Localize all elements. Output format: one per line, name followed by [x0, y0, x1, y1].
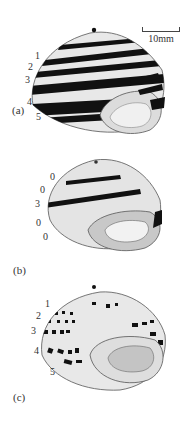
shell-c: [42, 285, 166, 390]
panel-label-c: (c): [13, 391, 25, 403]
band-label-a-3: 3: [25, 75, 30, 85]
band-label-b-3: 3: [35, 199, 40, 209]
shell-b: [45, 159, 162, 250]
band-label-b-2: 0: [40, 185, 45, 195]
band-label-b-1: 0: [50, 172, 55, 182]
band-label-c-3: 3: [31, 326, 36, 336]
band-label-b-4: 0: [36, 218, 41, 228]
scale-bar-label: 10mm: [142, 33, 180, 44]
band-label-a-5: 5: [36, 112, 41, 122]
band-label-a-4: 4: [27, 97, 32, 107]
band-label-c-1: 1: [45, 299, 50, 309]
snail-shell-figure: 10mm 1 2 3 4 5 (a) 0 0 3 0 0 (b) 1 2 3 4…: [0, 0, 188, 421]
scale-bar: 10mm: [142, 27, 180, 44]
band-label-b-5: 0: [43, 232, 48, 242]
scale-bar-line: [142, 27, 180, 32]
band-label-c-4: 4: [34, 346, 39, 356]
panel-label-b: (b): [13, 264, 26, 276]
band-label-c-2: 2: [36, 311, 41, 321]
band-label-a-1: 1: [35, 51, 40, 61]
band-label-c-5: 5: [50, 367, 55, 377]
panel-label-a: (a): [12, 104, 24, 116]
band-label-a-2: 2: [28, 62, 33, 72]
